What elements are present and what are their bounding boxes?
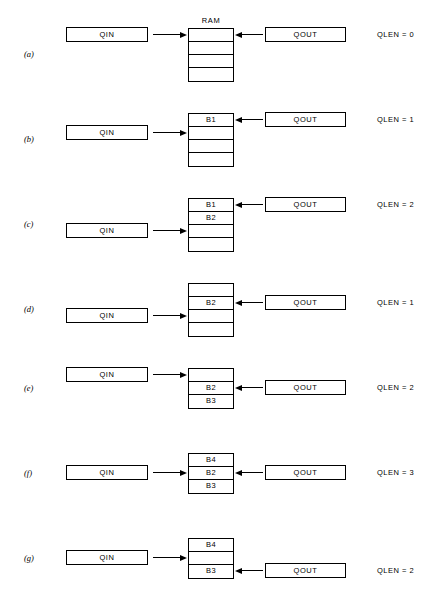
ram-cell [189, 55, 233, 68]
ram-cell [189, 238, 233, 251]
qlen-status-text: QLEN = 2 [377, 566, 443, 575]
qin-pointer-box: QIN [66, 27, 148, 42]
qin-arrow-icon [153, 469, 187, 476]
qout-pointer-box: QOUT [265, 112, 346, 127]
ram-buffer: B2 [188, 283, 234, 337]
ram-cell [189, 369, 233, 382]
ram-buffer [188, 28, 234, 82]
row-label: (g) [24, 553, 48, 563]
ram-cell [189, 552, 233, 565]
ram-cell: B1 [189, 114, 233, 127]
ram-buffer: B4B2B3 [188, 453, 234, 494]
ram-cell: B2 [189, 467, 233, 480]
qout-arrow-icon [235, 116, 263, 123]
ram-cell: B2 [189, 297, 233, 310]
qout-arrow-icon [235, 201, 263, 208]
qlen-status-text: QLEN = 2 [377, 383, 443, 392]
qout-arrow-icon [235, 384, 263, 391]
ram-cell [189, 68, 233, 81]
queue-state-row: (e)B2B3QINQOUTQLEN = 2 [0, 340, 443, 425]
ram-cell [189, 284, 233, 297]
ram-buffer: B4B3 [188, 538, 234, 579]
ram-cell: B3 [189, 480, 233, 493]
qin-arrow-icon [153, 312, 187, 319]
qin-pointer-box: QIN [66, 308, 148, 323]
ram-buffer: B1B2 [188, 198, 234, 252]
row-label: (d) [24, 304, 48, 314]
qin-pointer-box: QIN [66, 367, 148, 382]
qout-arrow-icon [235, 567, 263, 574]
ram-cell [189, 153, 233, 166]
qlen-status-text: QLEN = 3 [377, 468, 443, 477]
queue-state-row: (c)B1B2QINQOUTQLEN = 2 [0, 170, 443, 255]
ram-cell: B4 [189, 539, 233, 552]
ram-cell [189, 42, 233, 55]
ram-cell: B3 [189, 395, 233, 408]
qlen-status-text: QLEN = 1 [377, 115, 443, 124]
queue-state-row: (g)B4B3QINQOUTQLEN = 2 [0, 510, 443, 595]
ram-cell: B3 [189, 565, 233, 578]
ram-cell [189, 323, 233, 336]
ram-cell [189, 140, 233, 153]
ram-cell [189, 225, 233, 238]
qin-arrow-icon [153, 31, 187, 38]
ram-title: RAM [188, 16, 234, 25]
row-label: (b) [24, 134, 48, 144]
qout-pointer-box: QOUT [265, 27, 346, 42]
qin-arrow-icon [153, 371, 187, 378]
qin-pointer-box: QIN [66, 223, 148, 238]
ram-cell [189, 310, 233, 323]
ram-buffer: B1 [188, 113, 234, 167]
qout-arrow-icon [235, 299, 263, 306]
qlen-status-text: QLEN = 0 [377, 30, 443, 39]
qlen-status-text: QLEN = 1 [377, 298, 443, 307]
ram-cell [189, 29, 233, 42]
qout-pointer-box: QOUT [265, 563, 346, 578]
ram-buffer: B2B3 [188, 368, 234, 409]
queue-state-row: (f)B4B2B3QINQOUTQLEN = 3 [0, 425, 443, 510]
qin-arrow-icon [153, 227, 187, 234]
qout-arrow-icon [235, 469, 263, 476]
row-label: (e) [24, 383, 48, 393]
qin-arrow-icon [153, 554, 187, 561]
qin-arrow-icon [153, 129, 187, 136]
qout-pointer-box: QOUT [265, 465, 346, 480]
qout-arrow-icon [235, 31, 263, 38]
ram-cell: B1 [189, 199, 233, 212]
qin-pointer-box: QIN [66, 465, 148, 480]
ram-cell: B2 [189, 212, 233, 225]
qout-pointer-box: QOUT [265, 197, 346, 212]
ram-cell: B2 [189, 382, 233, 395]
qlen-status-text: QLEN = 2 [377, 200, 443, 209]
qout-pointer-box: QOUT [265, 295, 346, 310]
qout-pointer-box: QOUT [265, 380, 346, 395]
queue-state-row: (b)B1QINQOUTQLEN = 1 [0, 85, 443, 170]
qin-pointer-box: QIN [66, 125, 148, 140]
qin-pointer-box: QIN [66, 550, 148, 565]
circular-queue-diagram: (a)RAMQINQOUTQLEN = 0(b)B1QINQOUTQLEN = … [0, 0, 443, 598]
ram-cell: B4 [189, 454, 233, 467]
ram-cell [189, 127, 233, 140]
row-label: (f) [24, 468, 48, 478]
row-label: (a) [24, 49, 48, 59]
row-label: (c) [24, 219, 48, 229]
queue-state-row: (a)RAMQINQOUTQLEN = 0 [0, 0, 443, 85]
queue-state-row: (d)B2QINQOUTQLEN = 1 [0, 255, 443, 340]
